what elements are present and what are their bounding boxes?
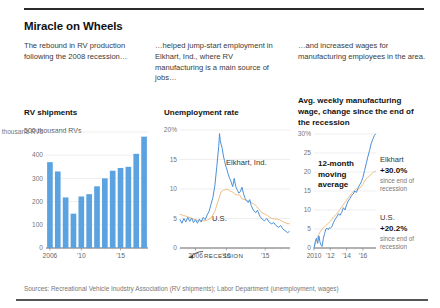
y-axis-tick-label: 5 — [173, 215, 177, 222]
bottom-rule — [16, 299, 428, 301]
rv-shipments-svg: 0100200300400500 thousand RVs2006'10'15 — [24, 120, 150, 272]
series-value-us-wage: +20.2% — [380, 224, 407, 233]
chart-title-unemployment: Unemployment rate — [164, 108, 239, 117]
x-axis-tick-label: '12 — [326, 252, 335, 259]
series-note-elkhart-wage: since end of recession — [380, 177, 424, 193]
y-axis-tick-label: 0 — [173, 244, 177, 251]
y-axis-tick-label: 25 — [304, 149, 312, 156]
y-axis-tick-label: 20% — [164, 126, 177, 133]
bar — [110, 171, 116, 248]
chart-title-rv-shipments: RV shipments — [24, 108, 77, 117]
bar — [47, 162, 53, 248]
x-axis-tick-label: '15 — [261, 252, 270, 259]
chart-panel-unemployment: 05101520%2006'10'15 — [164, 120, 294, 272]
y-axis-tick-label: 0 — [307, 244, 311, 251]
y-axis-tick-label: 500 thousand RVs — [0, 128, 44, 135]
y-axis-tick-label: 10 — [304, 206, 312, 213]
y-axis-tick-label: 30% — [298, 130, 311, 137]
bar — [71, 214, 77, 248]
y-axis-tick-label: 400 — [32, 151, 43, 158]
bar — [86, 194, 92, 248]
y-axis-tick-label: 100 — [32, 221, 43, 228]
y-axis-tick-label: 200 — [32, 198, 43, 205]
chart-title-wage-change: Avg. weekly manufacturing wage, change s… — [298, 96, 424, 128]
bar — [55, 171, 61, 248]
series-note-us-wage: since end of recession — [380, 235, 424, 251]
y-axis-tick-label: 20 — [304, 168, 312, 175]
deck-text-1: The rebound in RV production following t… — [24, 41, 139, 63]
x-axis-tick-label: '14 — [342, 252, 351, 259]
series-label-elkhart-unemployment: Elkhart, Ind. — [226, 158, 267, 167]
bar — [141, 137, 147, 248]
bar — [126, 167, 132, 248]
deck-text-3: …and increased wages for manufacturing e… — [298, 41, 426, 63]
unemployment-svg: 05101520%2006'10'15 — [164, 120, 294, 272]
y-axis-tick-label: 5 — [307, 225, 311, 232]
x-axis-tick-label: '10 — [77, 252, 86, 259]
series-label-us-unemployment: U.S. — [212, 214, 227, 223]
page-title: Miracle on Wheels — [24, 20, 123, 32]
chart-panel-rv-shipments: 0100200300400500 thousand RVs2006'10'15 — [24, 120, 150, 272]
deck-text-2: …helped jump-start employment in Elkhart… — [155, 41, 283, 84]
bar — [118, 168, 124, 248]
y-axis-tick-label: 15 — [304, 187, 312, 194]
bar — [63, 197, 69, 248]
x-axis-tick-label: '15 — [116, 252, 125, 259]
y-axis-tick-label: 300 — [32, 175, 43, 182]
chart-graphic: Miracle on Wheels The rebound in RV prod… — [0, 0, 440, 308]
top-rule — [24, 8, 424, 10]
bar — [78, 197, 84, 249]
y-axis-tick-label: 0 — [39, 244, 43, 251]
y-axis-tick-label: 15 — [170, 156, 178, 163]
bar — [102, 178, 108, 248]
bar — [94, 186, 100, 248]
series-label-elkhart-wage: Elkhart — [380, 155, 404, 164]
x-axis-tick-label: 2010 — [307, 252, 322, 259]
series-label-us-wage: U.S. — [380, 213, 395, 222]
bar — [133, 154, 139, 248]
y-axis-tick-label: 10 — [170, 185, 178, 192]
x-axis-tick-label: 2006 — [43, 252, 58, 259]
series-value-elkhart-wage: +30.0% — [380, 166, 407, 175]
x-axis-tick-label: '16 — [359, 252, 368, 259]
moving-average-note: 12-month moving average — [318, 159, 374, 191]
recession-arrow-icon — [186, 250, 204, 260]
source-line: Sources: Recreational Vehicle Inudstry A… — [24, 285, 339, 292]
recession-marker-label: RECESSION — [204, 252, 243, 259]
series-line-elkhart-ind — [180, 134, 289, 233]
